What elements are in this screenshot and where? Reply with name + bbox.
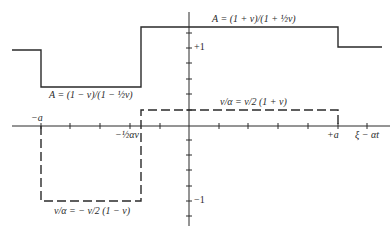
solid-upper-label: A = (1 + v)/(1 + ½v): [212, 14, 296, 24]
solid-curve-A: [12, 27, 382, 87]
inner-mark-label: −½αv: [115, 130, 139, 140]
vertical-lower-mark-label: −1: [194, 195, 205, 205]
step-function-figure: A = (1 + v)/(1 + ½v) A = (1 − v)/(1 − ½v…: [0, 0, 392, 233]
solid-lower-label: A = (1 − v)/(1 − ½v): [49, 90, 133, 100]
dashed-lower-label: v/α = − v/2 (1 − v): [54, 206, 130, 216]
horizontal-axis-label: ξ − αt: [355, 130, 379, 140]
left-mark-label: −a: [31, 113, 43, 123]
dashed-upper-label: v/α = v/2 (1 + v): [220, 97, 287, 107]
vertical-upper-mark-label: +1: [194, 42, 205, 52]
right-mark-label: +a: [327, 130, 339, 140]
